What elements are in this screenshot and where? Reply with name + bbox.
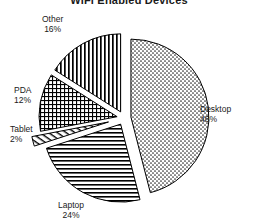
pie-chart-figure: WiFi Enabled Devices: [0, 0, 258, 224]
pie-label-desktop: Desktop 46%: [200, 104, 231, 124]
pie-label-laptop-name: Laptop: [58, 200, 84, 210]
pie-label-pda-name: PDA: [14, 85, 31, 95]
pie-label-laptop-value: 24%: [58, 210, 84, 220]
pie-label-tablet-name: Tablet: [10, 124, 33, 134]
pie-label-pda: PDA 12%: [14, 85, 31, 105]
pie-label-laptop: Laptop 24%: [58, 200, 84, 220]
pie-label-tablet-value: 2%: [10, 134, 33, 144]
pie-slice-desktop: [131, 39, 209, 193]
pie-label-desktop-value: 46%: [200, 114, 231, 124]
pie-label-desktop-name: Desktop: [200, 104, 231, 114]
pie-label-tablet: Tablet 2%: [10, 124, 33, 144]
pie-label-other-value: 16%: [42, 24, 63, 34]
pie-label-other: Other 16%: [42, 14, 63, 34]
pie-label-other-name: Other: [42, 14, 63, 24]
pie-label-pda-value: 12%: [14, 95, 31, 105]
